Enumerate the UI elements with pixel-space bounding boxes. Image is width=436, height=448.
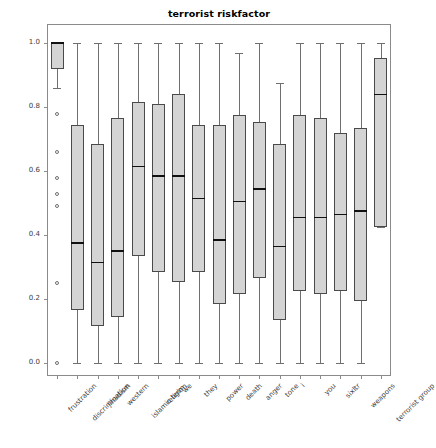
median-line bbox=[334, 214, 347, 216]
lower-cap bbox=[215, 363, 223, 364]
lower-whisker bbox=[199, 272, 200, 363]
x-tick-mark bbox=[259, 376, 260, 379]
x-tick-label-power: power bbox=[224, 382, 245, 403]
median-line bbox=[233, 201, 246, 203]
x-tick-mark bbox=[340, 376, 341, 379]
upper-whisker bbox=[118, 43, 119, 118]
y-tick-label: 0.2 bbox=[6, 294, 40, 302]
upper-whisker bbox=[340, 43, 341, 133]
lower-whisker bbox=[138, 256, 139, 363]
upper-cap bbox=[154, 43, 162, 44]
median-line bbox=[51, 42, 64, 44]
y-tick-mark bbox=[44, 299, 47, 300]
x-tick-mark bbox=[138, 376, 139, 379]
outlier-point bbox=[55, 204, 59, 208]
median-line bbox=[253, 188, 266, 190]
lower-whisker bbox=[320, 294, 321, 363]
y-tick-mark bbox=[44, 235, 47, 236]
y-tick-label: 0.8 bbox=[6, 102, 40, 110]
lower-whisker bbox=[239, 294, 240, 363]
lower-cap bbox=[235, 363, 243, 364]
box-iqr bbox=[152, 104, 165, 272]
box-iqr bbox=[51, 43, 64, 69]
upper-whisker bbox=[361, 43, 362, 128]
upper-cap bbox=[235, 53, 243, 54]
lower-cap bbox=[195, 363, 203, 364]
x-tick-label-weapons: weapons bbox=[369, 382, 397, 410]
page-title: terrorist riskfactor bbox=[47, 8, 391, 19]
x-tick-mark bbox=[280, 376, 281, 379]
x-tick-label-they: they bbox=[202, 382, 219, 399]
box-iqr bbox=[132, 102, 145, 256]
lower-whisker bbox=[57, 69, 58, 88]
x-tick-mark bbox=[219, 376, 220, 379]
upper-whisker bbox=[158, 43, 159, 104]
median-line bbox=[293, 217, 306, 219]
upper-whisker bbox=[219, 43, 220, 125]
upper-cap bbox=[73, 43, 81, 44]
median-line bbox=[91, 262, 104, 264]
x-tick-mark bbox=[381, 376, 382, 379]
upper-cap bbox=[134, 43, 142, 44]
x-tick-label-terrorist-group: terrorist group bbox=[395, 382, 436, 423]
x-tick-mark bbox=[57, 376, 58, 379]
upper-cap bbox=[114, 43, 122, 44]
median-line bbox=[374, 94, 387, 96]
lower-cap bbox=[94, 363, 102, 364]
lower-cap bbox=[336, 363, 344, 364]
median-line bbox=[192, 198, 205, 200]
lower-cap bbox=[255, 363, 263, 364]
x-tick-mark bbox=[300, 376, 301, 379]
upper-cap bbox=[377, 43, 385, 44]
x-tick-mark bbox=[199, 376, 200, 379]
upper-cap bbox=[195, 43, 203, 44]
box-iqr bbox=[111, 118, 124, 316]
upper-whisker bbox=[320, 43, 321, 118]
x-tick-mark bbox=[320, 376, 321, 379]
x-tick-label-tone: tone bbox=[283, 382, 300, 399]
x-tick-label-you: you bbox=[323, 382, 338, 397]
y-tick-label: 1.0 bbox=[6, 38, 40, 46]
upper-whisker bbox=[199, 43, 200, 125]
lower-whisker bbox=[158, 272, 159, 363]
median-line bbox=[314, 217, 327, 219]
lower-cap bbox=[357, 363, 365, 364]
outlier-point bbox=[55, 361, 59, 365]
lower-cap bbox=[175, 363, 183, 364]
box-iqr bbox=[91, 144, 104, 326]
x-tick-mark bbox=[98, 376, 99, 379]
box-iqr bbox=[273, 144, 286, 320]
box-iqr bbox=[71, 125, 84, 311]
outlier-point bbox=[55, 192, 59, 196]
outlier-point bbox=[55, 281, 59, 285]
x-tick-mark bbox=[118, 376, 119, 379]
y-tick-mark bbox=[44, 363, 47, 364]
outlier-point bbox=[55, 112, 59, 116]
lower-cap bbox=[134, 363, 142, 364]
box-iqr bbox=[374, 58, 387, 228]
median-line bbox=[172, 175, 185, 177]
lower-whisker bbox=[179, 282, 180, 364]
y-tick-mark bbox=[44, 171, 47, 172]
x-tick-mark bbox=[158, 376, 159, 379]
lower-whisker bbox=[118, 317, 119, 363]
upper-whisker bbox=[381, 43, 382, 57]
box-iqr bbox=[334, 133, 347, 291]
x-tick-mark bbox=[77, 376, 78, 379]
lower-cap bbox=[276, 363, 284, 364]
lower-whisker bbox=[300, 291, 301, 363]
x-tick-label-i: i bbox=[300, 382, 307, 389]
lower-cap bbox=[316, 363, 324, 364]
x-tick-mark bbox=[239, 376, 240, 379]
y-tick-mark bbox=[44, 107, 47, 108]
median-line bbox=[273, 246, 286, 248]
median-line bbox=[354, 210, 367, 212]
y-tick-label: 0.6 bbox=[6, 166, 40, 174]
lower-cap bbox=[114, 363, 122, 364]
box-iqr bbox=[314, 118, 327, 294]
upper-cap bbox=[276, 83, 284, 84]
upper-whisker bbox=[239, 53, 240, 115]
plot-area: indicator value 0.00.20.40.60.81.0 frust… bbox=[47, 24, 391, 376]
median-line bbox=[71, 242, 84, 244]
lower-cap bbox=[73, 363, 81, 364]
